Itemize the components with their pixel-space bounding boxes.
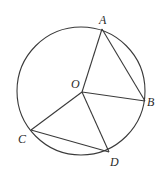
label-a: A bbox=[99, 14, 106, 26]
label-c: C bbox=[18, 133, 26, 145]
segment-oc bbox=[31, 92, 82, 130]
segment-ab bbox=[102, 29, 145, 101]
diagram-canvas: A B O C D bbox=[0, 0, 161, 172]
label-o: O bbox=[71, 78, 80, 90]
segment-ob bbox=[82, 92, 145, 101]
segment-cd bbox=[31, 130, 109, 152]
segment-od bbox=[82, 92, 109, 152]
geometry-figure bbox=[0, 0, 161, 172]
circle-o bbox=[17, 27, 145, 155]
label-d: D bbox=[110, 156, 119, 168]
segment-oa bbox=[82, 29, 102, 92]
label-b: B bbox=[147, 96, 154, 108]
